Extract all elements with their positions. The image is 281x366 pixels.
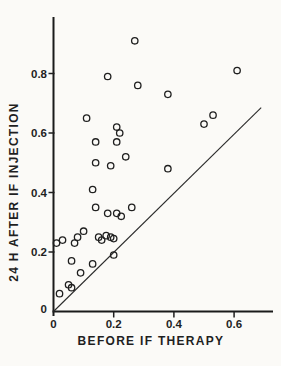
scatter-plot: 00.20.40.600.20.40.60.8 BEFORE IF THERAP… bbox=[0, 0, 281, 366]
data-point bbox=[234, 67, 240, 73]
data-point bbox=[89, 186, 95, 192]
x-tick-label: 0 bbox=[50, 318, 56, 330]
x-tick-label: 0.2 bbox=[106, 318, 122, 330]
data-point bbox=[123, 154, 129, 160]
data-point bbox=[92, 204, 98, 210]
data-point bbox=[165, 166, 171, 172]
data-point bbox=[92, 160, 98, 166]
data-point bbox=[132, 38, 138, 44]
data-point bbox=[80, 228, 86, 234]
data-point bbox=[107, 163, 113, 169]
data-point bbox=[77, 270, 83, 276]
data-point bbox=[92, 139, 98, 145]
y-tick-label: 0.4 bbox=[31, 187, 48, 199]
tick-marks bbox=[49, 74, 235, 318]
data-point bbox=[68, 258, 74, 264]
data-point bbox=[129, 204, 135, 210]
plot-axes bbox=[53, 17, 274, 316]
data-points bbox=[53, 38, 240, 297]
data-point bbox=[165, 91, 171, 97]
tick-labels: 00.20.40.600.20.40.60.8 bbox=[31, 68, 242, 330]
data-point bbox=[59, 237, 65, 243]
data-point bbox=[201, 121, 207, 127]
x-tick-label: 0.4 bbox=[166, 318, 183, 330]
y-tick-label: 0 bbox=[41, 303, 47, 315]
y-tick-label: 0.8 bbox=[31, 68, 48, 80]
data-point bbox=[117, 130, 123, 136]
y-tick-label: 0.6 bbox=[31, 127, 47, 139]
data-point bbox=[83, 115, 89, 121]
data-point bbox=[210, 112, 216, 118]
figure: 00.20.40.600.20.40.60.8 BEFORE IF THERAP… bbox=[0, 0, 281, 366]
data-point bbox=[104, 73, 110, 79]
data-point bbox=[104, 210, 110, 216]
data-point bbox=[135, 82, 141, 88]
data-point bbox=[89, 261, 95, 267]
identity-line bbox=[54, 108, 262, 312]
x-axis-title: BEFORE IF THERAPY bbox=[78, 334, 225, 348]
y-axis-title: 24 H AFTER IF INJECTION bbox=[7, 102, 21, 281]
data-point bbox=[114, 139, 120, 145]
x-tick-label: 0.6 bbox=[226, 318, 242, 330]
y-tick-label: 0.2 bbox=[31, 246, 47, 258]
data-point bbox=[74, 234, 80, 240]
data-point bbox=[56, 290, 62, 296]
